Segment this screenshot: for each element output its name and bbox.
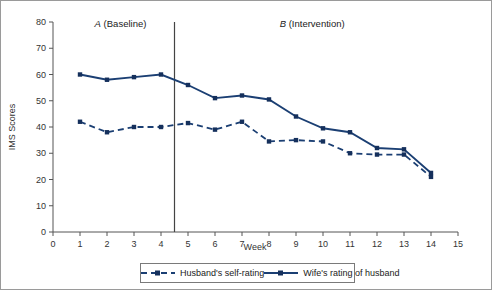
series-line-wife xyxy=(80,75,431,173)
x-tick-label: 14 xyxy=(426,239,436,249)
x-tick-label: 5 xyxy=(185,239,190,249)
x-tick-label: 11 xyxy=(345,239,354,249)
data-point-wife xyxy=(267,97,271,101)
y-tick-label: 10 xyxy=(36,201,46,211)
data-point-wife xyxy=(240,93,244,97)
data-point-wife xyxy=(294,114,298,118)
data-point-wife xyxy=(321,126,325,130)
data-point-wife xyxy=(348,130,352,134)
x-tick-label: 9 xyxy=(293,239,298,249)
x-tick-label: 13 xyxy=(399,239,409,249)
legend-swatch-solid xyxy=(264,268,298,278)
data-point-husband xyxy=(267,139,271,143)
legend-swatch-dashed xyxy=(141,268,175,278)
line-chart-svg: 01020304050607080 0123456789101112131415… xyxy=(1,1,492,253)
x-tick-label: 2 xyxy=(104,239,109,249)
data-point-wife xyxy=(105,78,109,82)
chart-figure: 01020304050607080 0123456789101112131415… xyxy=(0,0,492,290)
y-axis-label: IMS Scores xyxy=(7,103,17,150)
data-point-wife xyxy=(375,146,379,150)
x-tick-label: 1 xyxy=(77,239,82,249)
x-tick-label: 6 xyxy=(212,239,217,249)
y-tick-label: 0 xyxy=(41,227,46,237)
data-point-husband xyxy=(429,175,433,179)
data-point-husband xyxy=(159,125,163,129)
chart-legend: Husband's self-rating Wife's rating of h… xyxy=(140,263,355,283)
plot-area: 01020304050607080 0123456789101112131415… xyxy=(1,1,492,253)
x-tick-label: 12 xyxy=(372,239,382,249)
data-point-husband xyxy=(348,151,352,155)
data-point-wife xyxy=(429,171,433,175)
x-tick-label: 0 xyxy=(50,239,55,249)
x-tick-label: 4 xyxy=(158,239,163,249)
data-point-husband xyxy=(213,127,217,131)
data-point-wife xyxy=(159,72,163,76)
y-tick-label: 70 xyxy=(36,43,46,53)
y-tick-label: 30 xyxy=(36,148,46,158)
data-point-husband xyxy=(294,138,298,142)
data-point-husband xyxy=(78,120,82,124)
legend-label-wife: Wife's rating of husband xyxy=(303,268,399,278)
y-tick-label: 20 xyxy=(36,175,46,185)
legend-label-husband: Husband's self-rating xyxy=(180,268,264,278)
data-point-husband xyxy=(186,121,190,125)
data-point-husband xyxy=(321,139,325,143)
data-point-wife xyxy=(186,83,190,87)
data-point-wife xyxy=(213,96,217,100)
legend-item-husband: Husband's self-rating xyxy=(141,268,264,278)
x-tick-label: 3 xyxy=(131,239,136,249)
y-tick-label: 80 xyxy=(36,17,46,27)
data-point-husband xyxy=(402,152,406,156)
legend-item-wife: Wife's rating of husband xyxy=(264,268,399,278)
y-tick-label: 50 xyxy=(36,96,46,106)
data-point-wife xyxy=(78,72,82,76)
x-tick-label: 8 xyxy=(266,239,271,249)
phase-label-a: A (Baseline) xyxy=(94,18,147,29)
y-tick-label: 40 xyxy=(36,122,46,132)
data-point-husband xyxy=(240,120,244,124)
data-point-husband xyxy=(105,130,109,134)
x-tick-label: 10 xyxy=(318,239,328,249)
x-tick-label: 15 xyxy=(453,239,463,249)
x-axis-label: Week xyxy=(244,242,267,252)
data-point-husband xyxy=(375,152,379,156)
phase-label-b: B (Intervention) xyxy=(280,18,345,29)
data-point-wife xyxy=(402,147,406,151)
data-point-husband xyxy=(132,125,136,129)
data-point-wife xyxy=(132,75,136,79)
y-tick-label: 60 xyxy=(36,70,46,80)
